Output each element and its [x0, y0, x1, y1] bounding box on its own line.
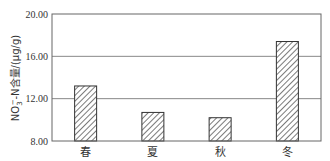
bar-0 — [75, 86, 97, 141]
x-category-label: 夏 — [147, 146, 158, 159]
x-category-label: 冬 — [282, 145, 293, 159]
y-tick-label: 12.00 — [26, 93, 49, 104]
y-tick-label: 20.00 — [26, 9, 49, 20]
y-tick-label: 16.00 — [26, 51, 49, 62]
bar-1 — [142, 112, 164, 141]
y-axis-ticks: 8.0012.0016.0020.00 — [26, 9, 49, 147]
y-tick-label: 8.00 — [31, 136, 49, 147]
bar-2 — [209, 118, 231, 141]
y-axis-label: NO3−-N含量/(μg/g) — [9, 35, 24, 121]
bar-3 — [276, 42, 298, 141]
x-category-label: 春 — [80, 146, 91, 159]
x-axis-categories: 春夏秋冬 — [80, 145, 293, 159]
x-category-label: 秋 — [215, 145, 226, 159]
bar-chart: 8.0012.0016.0020.00 春夏秋冬 NO3−-N含量/(μg/g) — [0, 0, 330, 161]
